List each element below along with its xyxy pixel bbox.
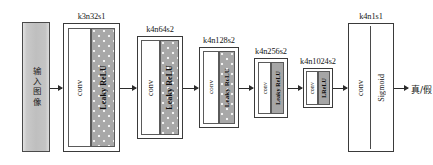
arrow-stage2-to-stage3 bbox=[183, 88, 198, 89]
stage-6-activation-label: Sigmoid bbox=[377, 74, 386, 102]
input-image-block: 输入图像 bbox=[22, 22, 50, 152]
arrow-stage4-to-stage5 bbox=[288, 88, 302, 89]
arrow-stage3-to-stage4 bbox=[239, 88, 253, 89]
arrow-stage5-to-stage6 bbox=[333, 88, 347, 89]
diagram-canvas: 输入图像 k3n32s1 conv Leaky ReLU k4n64s2 con… bbox=[0, 0, 433, 165]
stage-3: k4n128s2 conv Leaky ReLU bbox=[199, 36, 239, 128]
stage-3-inner: conv Leaky ReLU bbox=[203, 51, 235, 124]
stage-5: k4n1024s2 conv LReLU bbox=[303, 57, 333, 108]
stage-4-label: k4n256s2 bbox=[255, 47, 287, 56]
stage-6-activation: Sigmoid bbox=[371, 26, 391, 149]
stage-5-conv: conv bbox=[306, 71, 318, 105]
stage-4: k4n256s2 conv Leaky ReLU bbox=[254, 47, 288, 118]
stage-3-activation: Leaky ReLU bbox=[219, 51, 235, 124]
stage-2-conv-label: conv bbox=[146, 80, 155, 96]
stage-2-label: k4n64s2 bbox=[146, 25, 174, 34]
arrow-stage1-to-stage2 bbox=[120, 88, 136, 89]
arrow-stage6-to-output bbox=[394, 88, 408, 89]
stage-3-conv-label: conv bbox=[207, 80, 215, 94]
stage-3-activation-label: Leaky ReLU bbox=[223, 68, 231, 107]
stage-5-inner: conv LReLU bbox=[306, 71, 330, 105]
stage-1-conv-label: conv bbox=[75, 80, 84, 96]
stage-6-label: k4n1s1 bbox=[359, 12, 383, 21]
stage-4-inner: conv Leaky ReLU bbox=[258, 62, 284, 114]
stage-4-conv-label: conv bbox=[262, 82, 268, 94]
stage-1-conv: conv bbox=[68, 28, 91, 147]
stage-5-conv-label: conv bbox=[309, 82, 315, 94]
stage-5-activation: LReLU bbox=[318, 71, 330, 105]
stage-2-activation: Leaky ReLU bbox=[160, 40, 179, 135]
stage-6-conv: conv bbox=[351, 26, 371, 149]
stage-6-inner: conv Sigmoid bbox=[351, 26, 391, 149]
stage-1-activation: Leaky ReLU bbox=[91, 28, 115, 147]
stage-6: k4n1s1 conv Sigmoid bbox=[348, 12, 394, 152]
stage-2: k4n64s2 conv Leaky ReLU bbox=[137, 25, 183, 139]
stage-4-activation: Leaky ReLU bbox=[271, 62, 284, 114]
stage-2-inner: conv Leaky ReLU bbox=[141, 40, 179, 135]
stage-1-activation-label: Leaky ReLU bbox=[99, 65, 108, 110]
stage-2-activation-label: Leaky ReLU bbox=[165, 65, 174, 110]
stage-6-conv-label: conv bbox=[356, 80, 365, 96]
stage-4-conv: conv bbox=[258, 62, 271, 114]
stage-3-conv: conv bbox=[203, 51, 219, 124]
arrow-input-to-stage1 bbox=[50, 88, 62, 89]
stage-2-conv: conv bbox=[141, 40, 160, 135]
real-fake-output-label: 真/假 bbox=[411, 83, 432, 96]
stage-1: k3n32s1 conv Leaky ReLU bbox=[63, 12, 120, 152]
stage-5-label: k4n1024s2 bbox=[300, 57, 336, 66]
input-image-label: 输入图像 bbox=[31, 67, 41, 108]
stage-4-activation-label: Leaky ReLU bbox=[275, 71, 281, 105]
stage-5-activation-label: LReLU bbox=[321, 78, 327, 98]
stage-3-label: k4n128s2 bbox=[203, 36, 235, 45]
stage-1-label: k3n32s1 bbox=[78, 12, 106, 21]
stage-1-inner: conv Leaky ReLU bbox=[68, 28, 115, 147]
